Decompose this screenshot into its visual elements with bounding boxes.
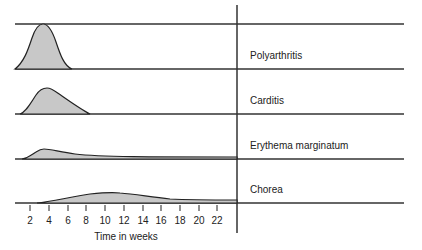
tick-label: 18 bbox=[174, 215, 186, 226]
x-axis-tick-labels: 2 4 6 8 10 12 14 16 18 20 22 bbox=[27, 215, 223, 226]
row-label-chorea: Chorea bbox=[250, 184, 283, 195]
tick-label: 12 bbox=[118, 215, 130, 226]
polyarthritis-area bbox=[15, 24, 72, 69]
tick-label: 10 bbox=[99, 215, 111, 226]
tick-label: 22 bbox=[211, 215, 223, 226]
erythema-marginatum-area bbox=[22, 149, 237, 159]
tick-label: 2 bbox=[27, 215, 33, 226]
tick-label: 8 bbox=[83, 215, 89, 226]
x-axis-ticks bbox=[30, 205, 217, 211]
tick-label: 16 bbox=[155, 215, 167, 226]
row-label-erythema-marginatum: Erythema marginatum bbox=[250, 140, 348, 151]
tick-label: 4 bbox=[46, 215, 52, 226]
tick-label: 6 bbox=[65, 215, 71, 226]
rheumatic-fever-timeline-chart: 2 4 6 8 10 12 14 16 18 20 22 Time in wee… bbox=[0, 0, 422, 250]
carditis-area bbox=[20, 88, 90, 114]
tick-label: 14 bbox=[137, 215, 149, 226]
tick-label: 20 bbox=[193, 215, 205, 226]
row-label-carditis: Carditis bbox=[250, 95, 284, 106]
x-axis-label: Time in weeks bbox=[94, 231, 158, 242]
row-label-polyarthritis: Polyarthritis bbox=[250, 50, 302, 61]
chorea-area bbox=[37, 193, 237, 203]
